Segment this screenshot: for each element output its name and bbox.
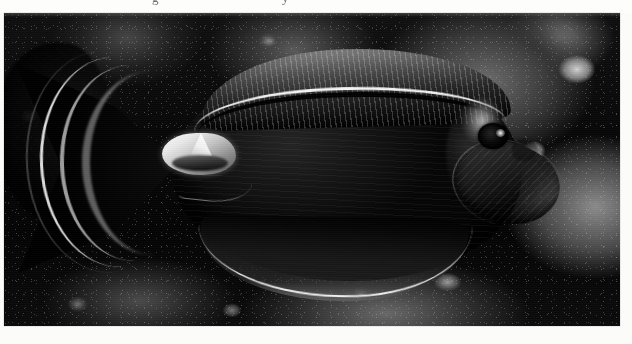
anal-fin-white-margin xyxy=(197,208,473,300)
page-background: g y xyxy=(0,0,632,344)
caption-descender-glyph-2: y xyxy=(282,0,289,4)
caption-descender-glyph-1: g xyxy=(152,0,159,4)
fish-eye xyxy=(478,123,508,149)
surgeonfish xyxy=(4,13,620,326)
cut-off-caption-line: g y xyxy=(0,0,632,13)
fish-eye-highlight xyxy=(496,129,505,137)
fish-snout xyxy=(512,139,538,161)
photo-content xyxy=(4,13,620,326)
reef-fish-photograph xyxy=(4,13,620,326)
